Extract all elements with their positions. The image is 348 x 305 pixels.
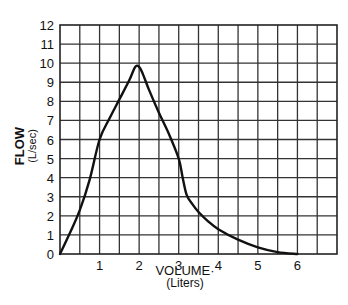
x-tick-label: 1 [96, 258, 103, 273]
y-axis-unit: (L/sec) [26, 127, 38, 165]
x-tick-label: 6 [294, 258, 301, 273]
y-tick-label: 8 [47, 94, 54, 109]
y-axis-title: FLOW [14, 127, 26, 165]
grid [60, 25, 337, 254]
x-tick-label: 2 [136, 258, 143, 273]
y-tick-label: 11 [41, 37, 55, 52]
y-tick-label: 12 [40, 18, 54, 33]
y-tick-label: 1 [47, 228, 54, 243]
x-axis-label: VOLUME· (Liters) [145, 264, 225, 290]
y-axis-label: FLOW (L/sec) [4, 118, 48, 174]
y-tick-label: 3 [47, 190, 54, 205]
y-tick-label: 2 [47, 209, 54, 224]
x-tick-label: 5 [254, 258, 261, 273]
x-axis-unit: (Liters) [145, 277, 225, 290]
y-tick-label: 10 [40, 56, 54, 71]
y-tick-label: 9 [47, 75, 54, 90]
y-tick-label: 0 [47, 247, 54, 262]
flow-volume-chart: 0123456789101112 123456 [0, 0, 348, 305]
